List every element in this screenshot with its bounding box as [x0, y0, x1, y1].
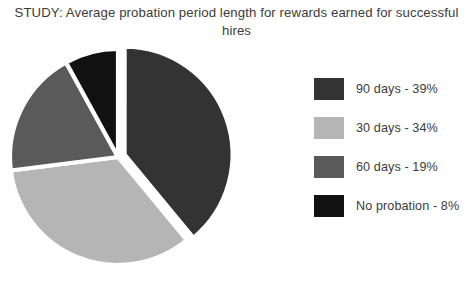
- legend-label: No probation - 8%: [356, 199, 459, 213]
- legend-item[interactable]: 30 days - 34%: [314, 117, 459, 139]
- chart-legend: 90 days - 39%30 days - 34%60 days - 19%N…: [314, 78, 459, 234]
- legend-label: 30 days - 34%: [356, 121, 438, 135]
- pie-plot-area: [0, 44, 300, 289]
- legend-item[interactable]: 90 days - 39%: [314, 78, 459, 100]
- legend-swatch: [314, 117, 344, 139]
- legend-label: 60 days - 19%: [356, 160, 438, 174]
- legend-swatch: [314, 195, 344, 217]
- legend-swatch: [314, 78, 344, 100]
- pie-svg: [0, 44, 300, 289]
- chart-title: STUDY: Average probation period length f…: [0, 4, 473, 40]
- legend-label: 90 days - 39%: [356, 82, 438, 96]
- legend-item[interactable]: No probation - 8%: [314, 195, 459, 217]
- legend-item[interactable]: 60 days - 19%: [314, 156, 459, 178]
- pie-chart-figure: STUDY: Average probation period length f…: [0, 0, 473, 289]
- pie-slices: [10, 47, 233, 265]
- legend-swatch: [314, 156, 344, 178]
